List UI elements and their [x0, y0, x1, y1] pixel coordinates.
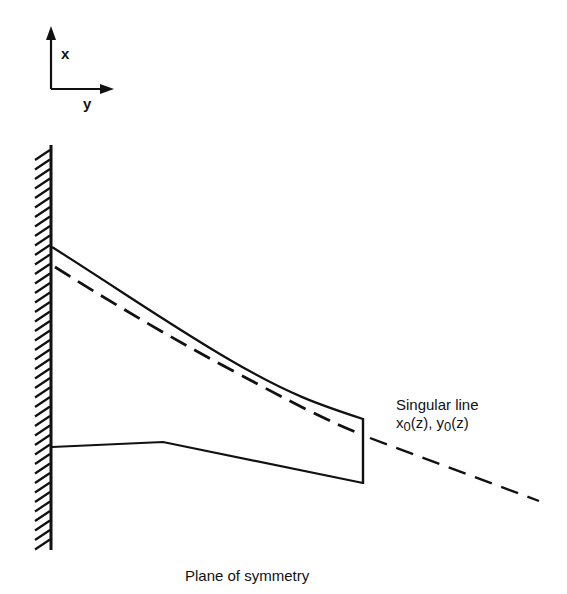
singular-line-title: Singular line	[396, 396, 479, 413]
singular-line-inner	[55, 267, 363, 435]
formula-y-argument: (z)	[451, 414, 469, 431]
y-axis-arrowhead-icon	[100, 84, 114, 94]
singular-line-formula: x0(z), y0(z)	[396, 414, 469, 434]
wing-trailing-edge	[52, 442, 363, 483]
formula-x-argument: (z),	[411, 414, 437, 431]
symmetry-wall	[35, 145, 51, 550]
wall-hatching-icon	[35, 150, 50, 550]
wing-singular-line-diagram: x y Singular line x0(z), y0(z) Plane of …	[0, 0, 567, 594]
formula-x-subscript: 0	[404, 419, 411, 434]
wing-leading-edge	[52, 247, 363, 419]
coordinate-axes	[46, 26, 114, 94]
x-axis-label: x	[61, 45, 70, 62]
singular-line-extension	[370, 438, 539, 501]
y-axis-label: y	[83, 95, 92, 112]
x-axis-arrowhead-icon	[46, 26, 56, 40]
formula-y-subscript: 0	[444, 419, 451, 434]
plane-of-symmetry-caption: Plane of symmetry	[185, 567, 310, 584]
